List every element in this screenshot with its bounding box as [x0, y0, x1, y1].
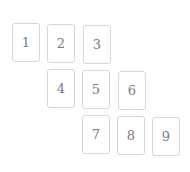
card-label: 8: [127, 129, 135, 142]
card-1[interactable]: 1: [12, 23, 40, 62]
card-label: 2: [57, 37, 65, 50]
card-9[interactable]: 9: [152, 117, 180, 156]
card-label: 6: [128, 84, 136, 97]
card-label: 4: [57, 82, 65, 95]
card-label: 7: [92, 128, 100, 141]
card-3[interactable]: 3: [83, 25, 111, 64]
card-8[interactable]: 8: [117, 116, 145, 155]
card-label: 5: [92, 83, 100, 96]
card-4[interactable]: 4: [47, 69, 75, 108]
card-label: 9: [162, 130, 170, 143]
card-2[interactable]: 2: [47, 24, 75, 63]
card-label: 1: [22, 36, 30, 49]
card-label: 3: [93, 38, 101, 51]
card-7[interactable]: 7: [82, 115, 110, 154]
card-5[interactable]: 5: [82, 70, 110, 109]
card-6[interactable]: 6: [118, 71, 146, 110]
